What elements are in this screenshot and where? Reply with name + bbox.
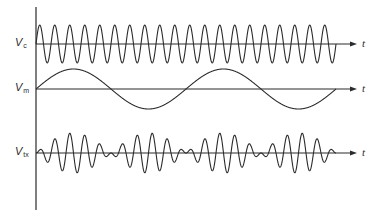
transmitted-time-label: t: [362, 147, 365, 158]
transmitted-row: [36, 133, 357, 173]
modulating-arrow-icon: [350, 87, 357, 92]
carrier-row: [36, 25, 357, 63]
carrier-label-main: V: [15, 36, 22, 48]
modulating-time-label: t: [362, 83, 365, 94]
transmitted-label: Vtx: [15, 146, 29, 157]
modulating-label-main: V: [15, 81, 22, 93]
modulating-label-sub: m: [23, 87, 29, 94]
carrier-waveform: [36, 25, 336, 63]
carrier-arrow-icon: [350, 42, 357, 47]
carrier-time-label: t: [362, 38, 365, 49]
carrier-label-sub: c: [23, 42, 27, 49]
carrier-label: Vc: [15, 37, 27, 48]
transmitted-waveform: [36, 133, 336, 173]
transmitted-label-main: V: [15, 145, 22, 157]
modulating-row: [36, 69, 357, 109]
modulation-diagram: [0, 0, 381, 220]
transmitted-label-sub: tx: [23, 151, 28, 158]
modulating-label: Vm: [15, 82, 29, 93]
transmitted-arrow-icon: [350, 151, 357, 156]
